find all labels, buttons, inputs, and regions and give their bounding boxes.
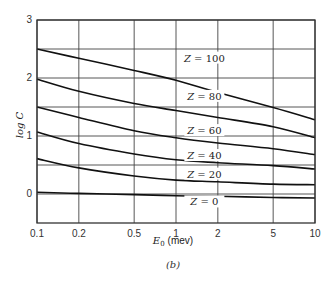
x-tick-label: 5: [270, 228, 276, 239]
x-tick-label: 0.5: [127, 228, 141, 239]
y-axis-ticks: 0123: [26, 14, 32, 199]
curve-label: Z = 60: [186, 125, 221, 136]
x-axis-label: E0(mev): [152, 235, 193, 248]
y-tick-label: 1: [26, 130, 32, 141]
curve-label: Z = 100: [183, 53, 225, 64]
figure-caption: (b): [166, 259, 180, 270]
curve-labels: Z = 100Z = 80Z = 60Z = 40Z = 20Z = 0: [183, 52, 225, 208]
curve-label: Z = 80: [186, 91, 221, 102]
curve-label: Z = 40: [186, 150, 221, 161]
log-c-vs-energy-chart: Z = 100Z = 80Z = 60Z = 40Z = 20Z = 0 0.1…: [0, 0, 334, 283]
x-tick-label: 10: [309, 228, 321, 239]
curve-label: Z = 0: [189, 196, 218, 207]
y-tick-label: 2: [26, 72, 32, 83]
x-tick-label: 0.2: [72, 228, 86, 239]
y-tick-label: 3: [26, 14, 32, 25]
x-tick-label: 0.1: [30, 228, 44, 239]
y-tick-label: 0: [26, 188, 32, 199]
y-axis-label: log C: [14, 111, 25, 138]
x-tick-label: 2: [215, 228, 221, 239]
curve-label: Z = 20: [186, 169, 221, 180]
grid-lines: [37, 20, 315, 223]
